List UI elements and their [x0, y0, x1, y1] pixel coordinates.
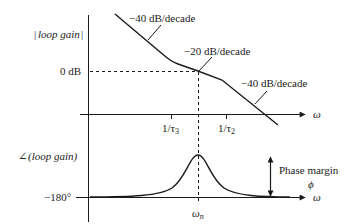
slope-leader-3: [255, 91, 267, 104]
phase-baseline-label: −180°: [44, 191, 71, 203]
phase-margin-symbol: ϕ: [308, 178, 314, 190]
magnitude-ylabel-bar-left: |: [34, 28, 36, 40]
tick-tau2-label: 1/τ2: [218, 122, 235, 136]
tick-tau3-label: 1/τ3: [162, 122, 179, 136]
phase-angle-symbol: ∠: [18, 150, 27, 162]
magnitude-omega-label: ω: [313, 108, 321, 120]
slope-leader-1: [148, 25, 161, 40]
magnitude-ylabel: loop gain: [38, 28, 80, 40]
omega-n-label: ωn: [192, 207, 204, 221]
slope-label-1: −40 dB/decade: [129, 12, 195, 24]
magnitude-ylabel-bar-right: |: [81, 28, 83, 40]
slope-leader-2: [199, 57, 212, 71]
magnitude-curve: [115, 14, 278, 125]
zero-db-label: 0 dB: [60, 65, 81, 77]
phase-margin-label: Phase margin: [279, 164, 339, 176]
phase-plot: ∠ (loop gain) −180° ω ωn Phase margin ϕ: [18, 150, 339, 221]
bode-diagram: | loop gain | 0 dB −40 dB/decade −20 dB/…: [0, 0, 360, 224]
phase-curve: [90, 155, 290, 197]
phase-ylabel: (loop gain): [28, 150, 78, 163]
slope-label-2: −20 dB/decade: [184, 45, 250, 57]
slope-label-3: −40 dB/decade: [241, 77, 307, 89]
magnitude-plot: | loop gain | 0 dB −40 dB/decade −20 dB/…: [34, 12, 321, 136]
phase-omega-label: ω: [313, 191, 321, 203]
